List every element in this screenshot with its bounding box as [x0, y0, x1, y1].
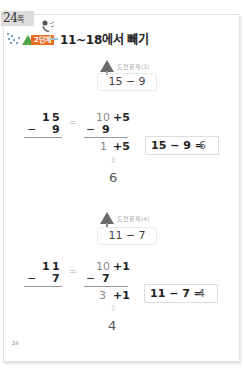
decorative-dots-icon [6, 33, 22, 47]
down-arrow-icon: ⇩ [110, 156, 117, 165]
decomp-row2: 9 [102, 123, 110, 136]
problem-expression: 15 − 9 [97, 73, 157, 91]
result-box: 15 − 9 = 6 [145, 136, 219, 155]
decomp-row3-right: +5 [113, 140, 130, 153]
vertical-bottom: 9 [52, 123, 60, 136]
section-title: 11~18에서 빼기 [60, 30, 149, 47]
vertical-minus: − [27, 272, 36, 285]
vertical-minus: − [27, 123, 36, 136]
result-expression: 15 − 9 = [151, 137, 204, 154]
page-number: 24 [12, 340, 18, 346]
decomp-row2-minus: − [86, 123, 95, 136]
page-tab-unit: 쪽 [17, 15, 24, 24]
vertical-top-tens: 1 [42, 260, 50, 273]
problem-caption: 도전문제(4) [117, 214, 150, 223]
step-arrow-icon [50, 38, 58, 40]
result-box: 11 − 7 = 4 [144, 284, 218, 303]
arrow-equals: = [69, 266, 77, 276]
vertical-bottom: 7 [52, 272, 60, 285]
mascot-icon [41, 20, 55, 32]
vertical-rule [24, 137, 62, 138]
vertical-rule [24, 286, 62, 287]
vertical-top-tens: 1 [42, 111, 50, 124]
answer: 6 [109, 170, 117, 185]
result-expression: 11 − 7 = [150, 285, 203, 302]
result-answer: 4 [198, 285, 205, 302]
problem-expression: 11 − 7 [97, 227, 157, 245]
section-header: 2단계 11~18에서 빼기 [6, 27, 236, 49]
decomp-row1-right: +1 [113, 260, 130, 273]
decomp-row3-left: 1 [100, 140, 107, 153]
answer: 4 [108, 318, 116, 333]
arrow-equals: = [69, 117, 77, 127]
decomp-row1-right: +5 [113, 111, 130, 124]
step-badge: 2단계 [22, 34, 52, 45]
page-tab-number: 24 [3, 11, 17, 25]
problem-caption: 도전문제(3) [117, 62, 150, 71]
down-arrow-icon: ⇩ [110, 304, 117, 313]
result-answer: 6 [199, 137, 206, 154]
page-tab: 24쪽 [1, 11, 34, 26]
decomp-row3-right: +1 [113, 289, 130, 302]
step-label: 2단계 [31, 35, 54, 45]
decomp-rule [84, 137, 128, 138]
decomp-rule [84, 286, 128, 287]
decomp-row2-minus: − [86, 272, 95, 285]
decomp-row2: 7 [102, 272, 110, 285]
decomp-row3-left: 3 [99, 289, 106, 302]
